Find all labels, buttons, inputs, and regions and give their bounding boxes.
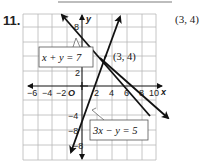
x-tick-label: −2 (56, 88, 66, 98)
y-axis-label: y (85, 14, 92, 24)
coordinate-graph: y x O −6 −4 −2 2 4 6 8 10 8 2 −4 −8 −8 x… (0, 0, 206, 163)
equation-label-2: 3x − y = 5 (92, 125, 138, 136)
x-tick-label: −6 (27, 88, 37, 98)
x-axis-label: x (160, 87, 167, 97)
y-tick-label: 2 (75, 68, 80, 78)
x-tick-label: −4 (42, 88, 52, 98)
equation-label-1: x + y = 7 (41, 52, 82, 63)
callout-pointer (73, 38, 80, 47)
callout-pointer-2 (92, 108, 104, 120)
origin-label: O (68, 88, 75, 98)
x-tick-label: 4 (109, 88, 114, 98)
x-tick-label: 2 (94, 88, 99, 98)
intersection-label: (3, 4) (113, 51, 136, 63)
y-tick-label: −4 (68, 111, 78, 121)
x-tick-label: 10 (149, 88, 159, 98)
